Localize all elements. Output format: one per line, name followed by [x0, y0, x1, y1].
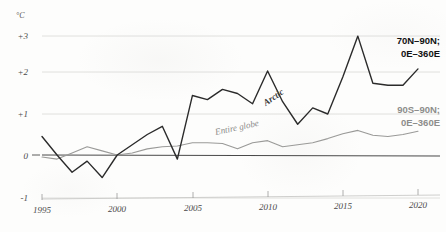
zero-reference-line — [42, 155, 440, 156]
chart-plot-area: °C +3 +2 +1 0 -1 1995 2000 2005 2010 201… — [0, 0, 446, 232]
y-label-minus1: -1 — [21, 193, 29, 203]
x-label-1995: 1995 — [33, 205, 52, 215]
y-label-zero: 0 — [24, 151, 29, 161]
gridlines — [42, 36, 440, 198]
y-axis-unit-label: °C — [16, 11, 25, 20]
inline-label-arctic: Arctic — [260, 87, 285, 108]
temperature-anomaly-chart: °C +3 +2 +1 0 -1 1995 2000 2005 2010 201… — [0, 0, 446, 232]
legend-arctic-line1: 70N–90N; — [397, 35, 440, 46]
y-label-plus1: +1 — [17, 109, 28, 119]
x-label-2005: 2005 — [184, 203, 203, 213]
y-label-plus3: +3 — [17, 31, 28, 41]
x-label-2020: 2020 — [409, 200, 428, 210]
legend-arctic-line2: 0E–360E — [401, 48, 440, 59]
legend-globe-line2: 0E–360E — [401, 117, 440, 128]
x-label-2010: 2010 — [259, 202, 278, 212]
inline-label-entire-globe: Entire globe — [213, 118, 260, 137]
x-label-2015: 2015 — [334, 201, 353, 211]
legend-globe-line1: 90S–90N; — [397, 104, 440, 115]
x-label-2000: 2000 — [108, 204, 127, 214]
y-label-plus2: +2 — [17, 67, 28, 77]
